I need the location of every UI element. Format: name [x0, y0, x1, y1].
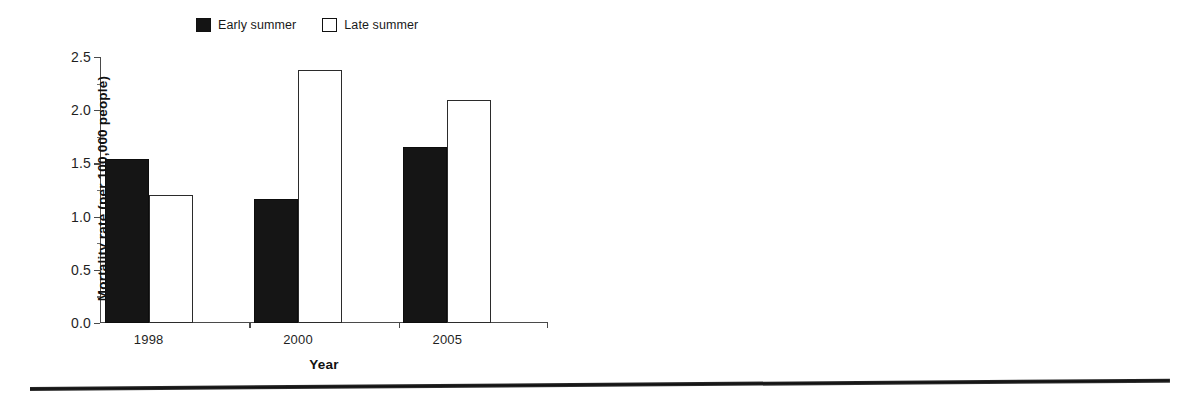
y-axis-minor-tick — [97, 190, 101, 191]
x-axis-tick — [249, 323, 250, 328]
x-axis-tick — [399, 323, 400, 328]
y-axis-tick — [94, 163, 100, 164]
legend-entry-early-summer: Early summer — [196, 18, 296, 32]
y-axis-tick-label: 2.0 — [71, 102, 91, 118]
y-axis-tick-label: 1.0 — [71, 209, 91, 225]
y-axis-tick — [94, 217, 100, 218]
y-axis-tick — [94, 57, 100, 58]
figure-canvas: Early summer Late summer Mortality rate … — [0, 0, 1186, 408]
y-axis-tick — [94, 110, 100, 111]
y-axis-tick-label: 1.5 — [71, 155, 91, 171]
legend-swatch-filled-square-icon — [196, 18, 211, 32]
legend-swatch-hollow-square-icon — [322, 18, 337, 32]
legend-label-late-summer: Late summer — [344, 18, 418, 32]
y-axis-minor-tick — [97, 243, 101, 244]
bar-late-summer-2005 — [447, 100, 491, 323]
x-axis-tick-label-1998: 1998 — [134, 332, 164, 347]
y-axis-tick — [94, 270, 100, 271]
x-axis-tick-label-2005: 2005 — [432, 332, 462, 347]
y-axis-tick — [94, 323, 100, 324]
bar-late-summer-2000 — [298, 70, 342, 323]
y-axis-minor-tick — [97, 137, 101, 138]
x-axis-tick-label-2000: 2000 — [283, 332, 313, 347]
y-axis-minor-tick — [97, 84, 101, 85]
x-axis-title: Year — [100, 357, 548, 372]
bar-late-summer-1998 — [149, 195, 193, 323]
bar-early-summer-2005 — [403, 147, 447, 323]
bar-early-summer-1998 — [105, 159, 149, 323]
y-axis-tick-label: 2.5 — [71, 49, 91, 65]
legend-entry-late-summer: Late summer — [322, 18, 418, 32]
chart-legend: Early summer Late summer — [196, 18, 418, 32]
mortality-rate-panel: Early summer Late summer Mortality rate … — [0, 0, 600, 408]
y-axis-tick-label: 0.5 — [71, 262, 91, 278]
legend-label-early-summer: Early summer — [218, 18, 296, 32]
mortality-rate-plot-area: Mortality rate (per 100,000 people) Year… — [100, 57, 548, 323]
y-axis-minor-tick — [97, 296, 101, 297]
y-axis-tick-label: 0.0 — [71, 315, 91, 331]
bar-early-summer-2000 — [254, 199, 298, 323]
x-axis-tick — [547, 323, 548, 328]
relative-risk-panel: Relative risk Year 0.00.51.01.52.02.5199… — [586, 0, 1186, 408]
